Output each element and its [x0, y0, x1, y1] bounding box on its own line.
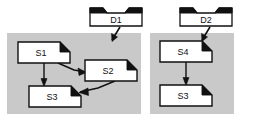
node-s3-left-label: S3: [46, 92, 57, 102]
node-s1-label: S1: [35, 48, 46, 58]
node-d1-notch-right-icon: [125, 8, 142, 13]
node-s3-left[interactable]: S3: [29, 86, 81, 107]
node-s1[interactable]: S1: [18, 42, 70, 63]
node-s4[interactable]: S4: [160, 41, 212, 62]
node-d2[interactable]: D2: [180, 8, 232, 26]
node-d1-notch-left-icon: [90, 8, 107, 13]
diagram-canvas: D1 D2: [0, 0, 256, 114]
node-d2-label: D2: [200, 15, 212, 25]
node-d2-notch-left-icon: [180, 8, 197, 13]
node-s3-right-label: S3: [177, 91, 188, 101]
node-s2[interactable]: S2: [85, 60, 137, 81]
node-s3-right[interactable]: S3: [160, 85, 212, 106]
node-d1[interactable]: D1: [90, 8, 142, 26]
node-d2-notch-right-icon: [215, 8, 232, 13]
node-d1-label: D1: [110, 15, 122, 25]
node-s4-label: S4: [177, 47, 188, 57]
node-s2-label: S2: [102, 66, 113, 76]
